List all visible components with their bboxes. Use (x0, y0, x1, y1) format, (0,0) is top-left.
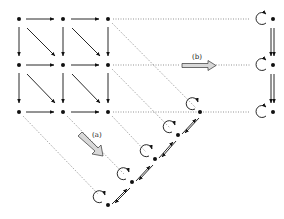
reduction-diagram: (a) (b) (0, 0, 284, 219)
node (198, 110, 202, 114)
guide-diag-4 (67, 116, 124, 174)
node (271, 63, 275, 67)
node (106, 203, 110, 207)
node (176, 133, 180, 137)
node (130, 180, 134, 184)
self-loops (256, 13, 266, 118)
label-b: (b) (192, 53, 202, 61)
node (17, 17, 21, 21)
node (61, 63, 65, 67)
node (153, 157, 157, 161)
node (106, 110, 110, 114)
right-column (256, 13, 275, 118)
guide-diag-5 (23, 116, 98, 194)
node (17, 63, 21, 67)
diagonal-chain (93, 98, 202, 207)
block-arrow-a: (a) (78, 131, 103, 156)
node (271, 110, 275, 114)
guide-diag-2 (112, 69, 170, 128)
bidirectional-edges (112, 118, 199, 204)
node (61, 110, 65, 114)
dotted-guides (23, 19, 250, 194)
node (106, 63, 110, 67)
guide-diag-3 (112, 116, 146, 152)
block-arrow-b: (b) (182, 53, 216, 71)
node (17, 110, 21, 114)
node (61, 17, 65, 21)
node (106, 17, 110, 21)
label-a: (a) (92, 131, 102, 139)
node (271, 17, 275, 21)
